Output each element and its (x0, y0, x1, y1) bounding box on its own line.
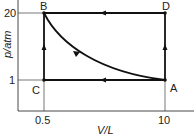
arrow-curve-icon (73, 51, 80, 57)
arrow-left-icon (100, 78, 106, 83)
label-B: B (40, 0, 47, 12)
y-axis-label: p/atm (1, 30, 13, 59)
arrow-up-icon (42, 44, 47, 50)
x-tick-10: 10 (158, 114, 170, 126)
label-D: D (162, 0, 170, 12)
label-C: C (32, 84, 40, 96)
y-tick-1: 1 (9, 74, 15, 86)
path-A-B-curve (44, 13, 165, 80)
x-axis-label: V/L (97, 124, 114, 136)
arrow-left-icon (100, 11, 106, 16)
arrow-up-icon (163, 44, 168, 50)
pv-diagram: B D C A 20 1 0.5 10 p/atm V/L (0, 0, 194, 136)
point-C (42, 78, 46, 82)
x-tick-05: 0.5 (35, 114, 50, 126)
y-tick-20: 20 (4, 7, 16, 19)
label-A: A (170, 82, 178, 94)
point-A (163, 78, 167, 82)
